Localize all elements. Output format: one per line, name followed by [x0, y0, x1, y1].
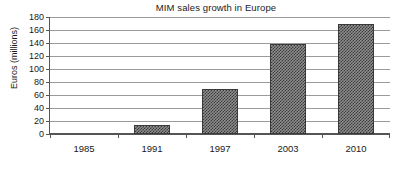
y-tick-mark — [46, 56, 50, 57]
y-tick-mark — [46, 30, 50, 31]
y-tick-label: 140 — [29, 39, 44, 48]
bar-2010 — [338, 24, 373, 134]
y-tick-label: 100 — [29, 65, 44, 74]
y-tick-label: 20 — [34, 117, 44, 126]
y-tick-mark — [46, 121, 50, 122]
chart-title: MIM sales growth in Europe — [46, 2, 386, 13]
bar-chart: MIM sales growth in Europe Euros (millio… — [0, 0, 399, 170]
y-tick-label: 0 — [39, 130, 44, 139]
bar-1997 — [202, 89, 237, 134]
x-tick-mark — [118, 134, 119, 138]
plot-area: 020406080100120140160180 198519911997200… — [49, 17, 390, 135]
x-tick-mark — [389, 134, 390, 138]
x-tick-mark — [50, 134, 51, 138]
y-tick-label: 80 — [34, 78, 44, 87]
x-tick-mark — [186, 134, 187, 138]
y-tick-mark — [46, 69, 50, 70]
y-tick-label: 120 — [29, 52, 44, 61]
y-tick-mark — [46, 95, 50, 96]
y-tick-mark — [46, 43, 50, 44]
x-tick-label: 2010 — [345, 143, 366, 154]
x-tick-label: 1991 — [141, 143, 162, 154]
x-tick-label: 1997 — [209, 143, 230, 154]
x-tick-label: 1985 — [73, 143, 94, 154]
x-tick-label: 2003 — [277, 143, 298, 154]
y-tick-mark — [46, 108, 50, 109]
bar-2003 — [270, 44, 305, 134]
y-tick-mark — [46, 17, 50, 18]
y-axis-title: Euros (millions) — [9, 0, 19, 118]
y-tick-label: 160 — [29, 26, 44, 35]
y-tick-label: 40 — [34, 104, 44, 113]
gridline — [50, 17, 390, 18]
y-tick-mark — [46, 82, 50, 83]
y-tick-label: 60 — [34, 91, 44, 100]
y-tick-label: 180 — [29, 13, 44, 22]
x-tick-mark — [254, 134, 255, 138]
bar-1991 — [134, 125, 169, 134]
x-tick-mark — [322, 134, 323, 138]
